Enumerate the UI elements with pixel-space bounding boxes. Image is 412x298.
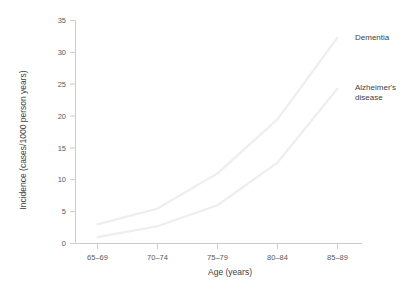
x-tick-label-65-69: 65–69 bbox=[87, 253, 108, 262]
y-axis-tick-labels: 0 5 10 15 20 25 30 35 bbox=[58, 16, 66, 248]
y-tick-label-5: 5 bbox=[62, 207, 66, 216]
x-axis-title: Age (years) bbox=[208, 267, 252, 277]
y-axis-title: Incidence (cases/1000 person years) bbox=[18, 70, 28, 210]
chart-svg: 0 5 10 15 20 25 30 35 65–69 70–74 75–79 … bbox=[0, 0, 412, 298]
series-line-dementia bbox=[98, 38, 338, 225]
x-tick-label-85-89: 85–89 bbox=[327, 253, 348, 262]
x-axis-tick-labels: 65–69 70–74 75–79 80–84 85–89 bbox=[87, 253, 348, 262]
incidence-line-chart: 0 5 10 15 20 25 30 35 65–69 70–74 75–79 … bbox=[0, 0, 412, 298]
x-tick-label-80-84: 80–84 bbox=[267, 253, 288, 262]
y-tick-label-25: 25 bbox=[58, 80, 66, 89]
x-axis-ticks bbox=[98, 244, 338, 250]
series-label-alzheimers-line2: disease bbox=[355, 93, 383, 102]
series-label-alzheimers-line1: Alzheimer's bbox=[355, 83, 396, 92]
series-lines bbox=[98, 38, 338, 238]
series-label-dementia: Dementia bbox=[355, 33, 390, 42]
y-axis-ticks bbox=[70, 20, 76, 243]
y-tick-label-35: 35 bbox=[58, 16, 66, 25]
y-tick-label-0: 0 bbox=[62, 239, 66, 248]
y-tick-label-15: 15 bbox=[58, 144, 66, 153]
y-tick-label-10: 10 bbox=[58, 175, 66, 184]
y-tick-label-20: 20 bbox=[58, 112, 66, 121]
y-tick-label-30: 30 bbox=[58, 48, 66, 57]
x-tick-label-75-79: 75–79 bbox=[207, 253, 228, 262]
x-tick-label-70-74: 70–74 bbox=[147, 253, 168, 262]
